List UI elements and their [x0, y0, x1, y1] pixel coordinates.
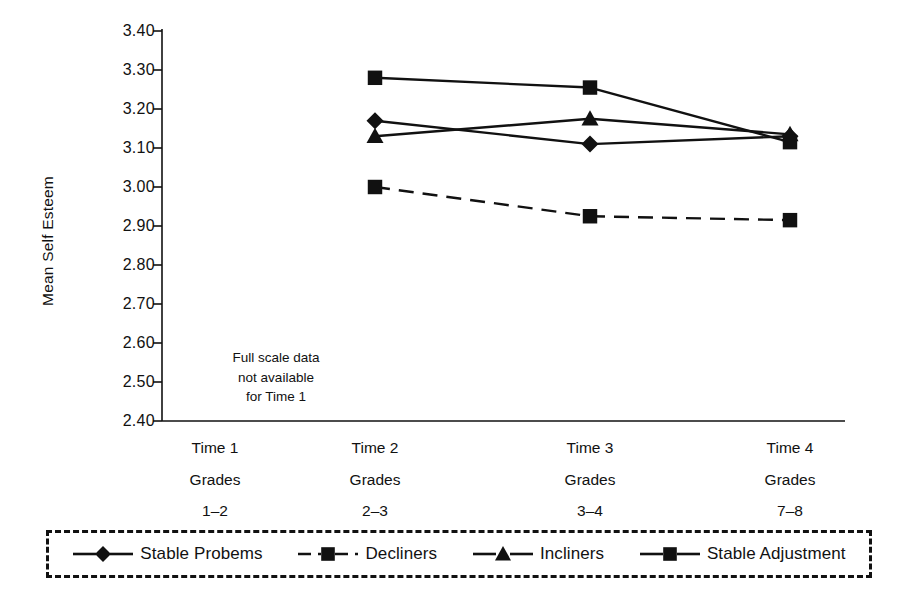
annotation-line-1: Full scale data: [196, 348, 356, 368]
legend-label: Incliners: [540, 544, 604, 564]
x-tick-line-2: Grades: [705, 472, 875, 488]
x-tick-line-1: Time 3: [505, 440, 675, 456]
x-tick-line-1: Time 4: [705, 440, 875, 456]
legend-label: Stable Adjustment: [707, 544, 846, 564]
x-tick-line-1: Time 2: [290, 440, 460, 456]
x-axis-ticks: Time 1Grades1–2Time 2Grades2–3Time 3Grad…: [0, 0, 915, 604]
x-tick-label: Time 1Grades1–2: [130, 440, 300, 519]
legend-key-triangle-icon: [472, 543, 534, 565]
x-tick-label: Time 3Grades3–4: [505, 440, 675, 519]
x-tick-line-3: 2–3: [290, 503, 460, 519]
x-tick-label: Time 2Grades2–3: [290, 440, 460, 519]
annotation-line-3: for Time 1: [196, 387, 356, 407]
chart-legend: Stable ProbemsDeclinersInclinersStable A…: [46, 530, 872, 578]
x-tick-line-2: Grades: [505, 472, 675, 488]
legend-key-square-icon: [297, 543, 359, 565]
x-tick-line-2: Grades: [290, 472, 460, 488]
plot-annotation: Full scale data not available for Time 1: [196, 348, 356, 407]
x-tick-line-3: 7–8: [705, 503, 875, 519]
legend-item-incliners: Incliners: [472, 543, 604, 565]
annotation-line-2: not available: [196, 368, 356, 388]
x-tick-label: Time 4Grades7–8: [705, 440, 875, 519]
legend-item-stable-probems: Stable Probems: [72, 543, 262, 565]
legend-label: Decliners: [365, 544, 437, 564]
x-tick-line-3: 3–4: [505, 503, 675, 519]
legend-key-diamond-icon: [72, 543, 134, 565]
chart-figure: Mean Self Esteem 3.403.303.203.103.002.9…: [0, 0, 915, 604]
legend-key-square-icon: [639, 543, 701, 565]
x-tick-line-1: Time 1: [130, 440, 300, 456]
legend-item-decliners: Decliners: [297, 543, 437, 565]
legend-item-stable-adjustment: Stable Adjustment: [639, 543, 846, 565]
x-tick-line-3: 1–2: [130, 503, 300, 519]
x-tick-line-2: Grades: [130, 472, 300, 488]
legend-label: Stable Probems: [140, 544, 262, 564]
